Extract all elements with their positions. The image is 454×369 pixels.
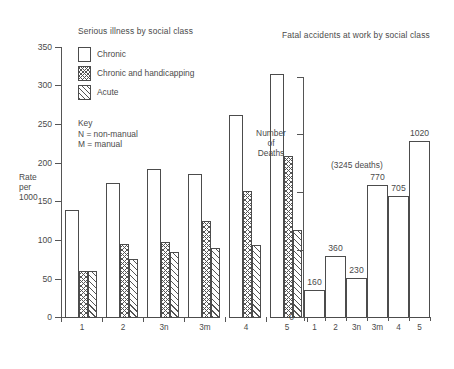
right-x-label: 3m xyxy=(367,323,388,332)
left-y-axis-title: Rate per 1000 xyxy=(19,172,38,202)
bar-deaths-3m xyxy=(367,185,388,318)
left-y-axis-title-line: 1000 xyxy=(19,192,38,202)
right-x-tick xyxy=(304,317,305,321)
bar-chronic-4 xyxy=(229,115,243,318)
bar-handicap-2 xyxy=(120,244,129,318)
right-x-tick xyxy=(346,317,347,321)
left-y-axis-title-line: Rate xyxy=(19,172,38,182)
left-x-label: 4 xyxy=(230,323,262,332)
right-chart-title: Fatal accidents at work by social class xyxy=(282,30,430,40)
legend-key-note: KeyN = non-manualM = manual xyxy=(78,118,138,150)
bar-deaths-3n xyxy=(346,278,367,318)
right-x-label: 1 xyxy=(304,323,325,332)
right-y-axis-title-line: of xyxy=(247,138,295,148)
left-chart-title: Serious illness by social class xyxy=(78,26,193,36)
left-y-tick xyxy=(55,47,62,48)
bar-value-label: 360 xyxy=(320,243,351,253)
bar-value-label: 705 xyxy=(383,183,414,193)
right-y-tick xyxy=(297,250,304,251)
bar-deaths-5 xyxy=(409,141,430,318)
right-chart-annotation: (3245 deaths) xyxy=(331,160,383,170)
right-x-label: 4 xyxy=(388,323,409,332)
left-x-label: 3n xyxy=(148,323,180,332)
left-y-tick-label: 350 xyxy=(22,42,52,52)
legend-label: Chronic and handicapping xyxy=(97,68,194,78)
bar-value-label: 770 xyxy=(362,172,393,182)
right-x-tick xyxy=(325,317,326,321)
bar-chronic-1 xyxy=(65,210,79,318)
right-x-tick xyxy=(367,317,368,321)
bar-handicap-3m xyxy=(202,221,211,318)
right-x-label: 3n xyxy=(346,323,367,332)
right-y-axis-title-line: Deaths xyxy=(247,148,295,158)
bar-acute-5 xyxy=(293,230,302,318)
bar-deaths-1 xyxy=(304,290,325,318)
right-y-tick xyxy=(297,77,304,78)
right-y-tick xyxy=(297,134,304,135)
right-y-axis-title: Number of Deaths xyxy=(247,128,295,158)
right-y-tick-label-zero: 0 xyxy=(280,312,294,322)
right-y-tick xyxy=(297,317,304,318)
left-y-tick-label: 50 xyxy=(22,274,52,284)
right-y-axis-title-line: Number xyxy=(247,128,295,138)
bar-deaths-4 xyxy=(388,196,409,318)
left-y-tick xyxy=(55,201,62,202)
left-y-tick-label: 300 xyxy=(22,80,52,90)
left-x-tick xyxy=(143,317,144,322)
right-x-tick xyxy=(430,317,431,321)
left-x-tick xyxy=(61,317,62,322)
left-x-tick xyxy=(102,317,103,322)
left-y-axis-title-line: per xyxy=(19,182,38,192)
right-x-label: 2 xyxy=(325,323,346,332)
left-y-tick-label: 0 xyxy=(22,312,52,322)
left-y-axis xyxy=(61,47,62,318)
left-y-tick-label: 250 xyxy=(22,119,52,129)
figure-canvas: Serious illness by social class 350 300 … xyxy=(0,0,454,369)
left-x-label: 5 xyxy=(271,323,303,332)
bar-chronic-5 xyxy=(270,74,284,318)
left-y-tick xyxy=(55,240,62,241)
left-y-tick xyxy=(55,124,62,125)
bar-acute-1 xyxy=(88,271,97,318)
legend-swatch-diagonal-icon xyxy=(78,85,91,100)
bar-acute-4 xyxy=(252,245,261,318)
right-x-tick xyxy=(388,317,389,321)
legend-swatch-crosshatch-icon xyxy=(78,66,91,81)
bar-acute-2 xyxy=(129,259,138,318)
bar-handicap-3n xyxy=(161,242,170,318)
legend-label: Chronic xyxy=(97,49,126,59)
left-x-label: 2 xyxy=(107,323,139,332)
left-x-tick xyxy=(225,317,226,322)
left-x-tick xyxy=(266,317,267,322)
left-x-label: 1 xyxy=(66,323,98,332)
left-y-tick xyxy=(55,279,62,280)
left-y-tick-label: 200 xyxy=(22,158,52,168)
bar-value-label: 230 xyxy=(341,265,372,275)
legend-label: Acute xyxy=(97,87,118,97)
bar-value-label: 1020 xyxy=(404,128,435,138)
left-y-tick-label: 100 xyxy=(22,235,52,245)
left-x-tick xyxy=(184,317,185,322)
bar-chronic-3m xyxy=(188,174,202,318)
right-x-label: 5 xyxy=(409,323,430,332)
bar-acute-3m xyxy=(211,248,220,318)
bar-handicap-1 xyxy=(79,271,88,318)
bar-value-label: 160 xyxy=(299,277,330,287)
right-y-tick xyxy=(297,192,304,193)
bar-handicap-4 xyxy=(243,191,252,318)
bar-acute-3n xyxy=(170,252,179,318)
left-y-tick xyxy=(55,85,62,86)
bar-chronic-2 xyxy=(106,183,120,318)
left-y-tick xyxy=(55,163,62,164)
bar-chronic-3n xyxy=(147,169,161,318)
right-x-tick xyxy=(409,317,410,321)
bar-handicap-5 xyxy=(284,156,293,318)
left-x-label: 3m xyxy=(189,323,221,332)
legend-swatch-white-icon xyxy=(78,47,91,62)
